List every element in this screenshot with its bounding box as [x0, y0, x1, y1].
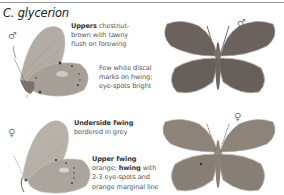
male-note-discal: Few white discal marks on hwing; eye-spo… [99, 64, 152, 92]
female-note-underside: Underside fwing bordered in grey [74, 119, 133, 137]
male-upperside-illustration [155, 16, 283, 100]
top-rule [0, 2, 284, 3]
female-note-upper-fwing: Upper fwing orange; hwing with 2-3 eye-s… [92, 155, 158, 192]
female-upperside-illustration [155, 112, 283, 195]
male-note-uppers: Uppers chestnut- brown with tawny flush … [71, 22, 129, 50]
